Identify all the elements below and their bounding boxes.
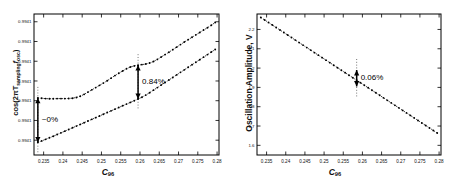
data-point	[41, 140, 43, 142]
data-point	[110, 110, 112, 112]
left-x-axis-label: C96	[78, 167, 138, 177]
data-point	[156, 87, 158, 89]
data-point	[129, 101, 131, 103]
data-point	[126, 68, 128, 70]
data-point	[99, 84, 101, 86]
data-point	[168, 51, 170, 53]
data-point	[168, 79, 170, 81]
data-point	[75, 97, 77, 99]
data-point	[390, 102, 392, 104]
data-point	[172, 49, 174, 51]
data-point	[176, 74, 178, 76]
data-point	[145, 63, 147, 65]
x-tick-label: 0.27	[396, 159, 405, 164]
data-point	[340, 69, 342, 71]
data-point	[45, 138, 47, 140]
data-point	[60, 98, 62, 100]
data-point	[191, 36, 193, 38]
data-point	[91, 118, 93, 120]
data-point	[432, 130, 434, 132]
data-point	[283, 32, 285, 34]
data-point	[56, 134, 58, 136]
data-point	[367, 87, 369, 89]
data-point	[72, 97, 74, 99]
data-point	[110, 77, 112, 79]
data-point	[321, 57, 323, 59]
data-point	[106, 112, 108, 114]
x-tick-label: 0.235	[38, 159, 50, 164]
data-point	[344, 72, 346, 74]
data-point	[149, 92, 151, 94]
data-point	[195, 61, 197, 63]
data-point	[417, 119, 419, 121]
data-point	[264, 19, 266, 21]
data-point	[337, 67, 339, 69]
plot-frame	[34, 14, 219, 155]
data-point	[79, 123, 81, 125]
data-point	[210, 51, 212, 53]
data-point	[114, 108, 116, 110]
data-point	[275, 27, 277, 29]
data-point	[48, 137, 50, 139]
data-point	[317, 54, 319, 56]
x-tick-label: 0.275	[414, 159, 426, 164]
data-point	[306, 47, 308, 49]
data-point	[52, 98, 54, 100]
right-x-axis-label: C96	[305, 167, 365, 177]
data-point	[68, 129, 70, 131]
data-point	[406, 112, 408, 114]
right-plot-svg: 0.2350.240.2450.250.2550.260.2650.270.27…	[227, 0, 453, 183]
y-tick-label: 1.6	[248, 143, 255, 148]
data-point	[210, 24, 212, 26]
data-point	[268, 22, 270, 24]
right-y-axis-label: Oscillation Amplitude, V	[244, 23, 254, 143]
data-point	[79, 95, 81, 97]
data-point	[95, 87, 97, 89]
x-tick-label: 0.235	[261, 159, 273, 164]
data-point	[91, 89, 93, 91]
data-point	[64, 98, 66, 100]
data-point	[214, 49, 216, 51]
data-point	[180, 71, 182, 73]
data-point	[48, 98, 50, 100]
data-point	[371, 89, 373, 91]
data-point	[394, 104, 396, 106]
data-point	[172, 77, 174, 79]
data-point	[64, 130, 66, 132]
x-tick-label: 0.28	[213, 159, 222, 164]
data-point	[102, 82, 104, 84]
data-point	[271, 24, 273, 26]
data-point	[402, 109, 404, 111]
data-point	[118, 72, 120, 74]
data-point	[145, 94, 147, 96]
data-point	[302, 44, 304, 46]
data-point	[156, 58, 158, 60]
plot-frame	[257, 14, 441, 155]
data-point	[106, 80, 108, 82]
data-point	[429, 127, 431, 129]
data-point	[375, 92, 377, 94]
data-point	[310, 49, 312, 51]
data-point	[56, 98, 58, 100]
data-point	[118, 107, 120, 109]
data-point	[203, 29, 205, 31]
data-point	[183, 69, 185, 71]
x-tick-label: 0.25	[320, 159, 329, 164]
data-point	[279, 29, 281, 31]
annotation-label: 0.06%	[361, 73, 384, 82]
data-point	[75, 125, 77, 127]
data-point	[83, 122, 85, 124]
data-point	[160, 56, 162, 58]
x-tick-label: 0.27	[174, 159, 183, 164]
x-tick-label: 0.24	[281, 159, 290, 164]
data-point	[129, 66, 131, 68]
data-point	[348, 74, 350, 76]
x-tick-label: 0.28	[435, 159, 444, 164]
data-point	[83, 93, 85, 95]
data-point	[191, 64, 193, 66]
data-point	[133, 65, 135, 67]
left-y-axis-label: cos(2πTsamplingfosc)	[11, 35, 20, 131]
data-point	[379, 94, 381, 96]
data-point	[141, 64, 143, 66]
data-point	[203, 56, 205, 58]
